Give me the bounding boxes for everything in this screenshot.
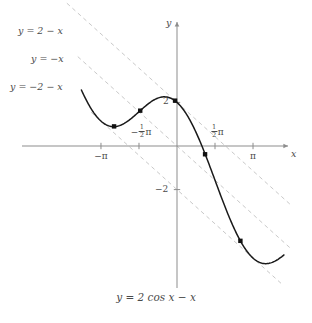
- plot-canvas: [0, 0, 312, 323]
- tangency-point-1: [112, 124, 116, 128]
- curve-2cosx-minus-x: [81, 90, 284, 264]
- tangency-point-5: [238, 239, 242, 243]
- x-tick-label-0: −π: [94, 152, 107, 161]
- line-label-1: y = 2 − x: [18, 26, 63, 36]
- x-axis-label: x: [291, 149, 296, 159]
- tangent-line-2: [78, 57, 292, 250]
- y-tick-label-1: −2: [155, 185, 168, 194]
- line-label-3: y = −2 − x: [10, 82, 63, 92]
- figure-caption: y = 2 cos x − x: [116, 292, 196, 303]
- x-axis-arrowhead: [283, 144, 288, 149]
- y-axis-label: y: [166, 18, 171, 28]
- y-tick-label-0: 2: [163, 97, 169, 106]
- graph-figure: y = 2 − xy = −xy = −2 − x−π−12π12ππ2−2xy…: [0, 0, 312, 323]
- line-label-2: y = −x: [31, 54, 64, 64]
- x-tick-label-2: 12π: [210, 124, 223, 139]
- y-axis-arrowhead: [175, 22, 180, 27]
- tangency-point-4: [203, 152, 207, 156]
- tangency-point-2: [138, 108, 142, 112]
- x-tick-label-1: −12π: [131, 124, 152, 139]
- x-tick-label-3: π: [250, 152, 256, 161]
- tangency-point-3: [173, 98, 177, 102]
